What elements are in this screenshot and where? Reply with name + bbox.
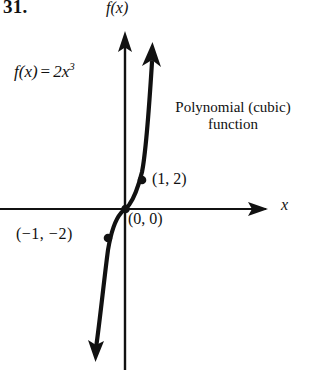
annotation-line-2: function [158, 116, 308, 133]
point-marker-1-2 [138, 176, 147, 185]
equation-exponent: 3 [69, 60, 75, 72]
point-label-neg1-neg2: (−1, −2) [16, 225, 73, 243]
annotation-callout: Polynomial (cubic)function [158, 99, 308, 133]
y-axis-label: f(x) [106, 0, 128, 17]
point-label-1-2: (1, 2) [152, 170, 187, 188]
equation-label: f(x)=2x3 [14, 60, 75, 81]
equation-coefficient: 2x [53, 62, 69, 81]
equation-equals-sign: = [38, 62, 54, 81]
equation-lhs: f(x) [14, 62, 38, 81]
x-axis-label: x [281, 196, 288, 214]
annotation-line-1: Polynomial (cubic) [175, 99, 290, 115]
problem-number: 31. [3, 0, 27, 17]
point-label-0-0: (0, 0) [128, 210, 163, 228]
point-marker-neg1-neg2 [104, 234, 113, 243]
